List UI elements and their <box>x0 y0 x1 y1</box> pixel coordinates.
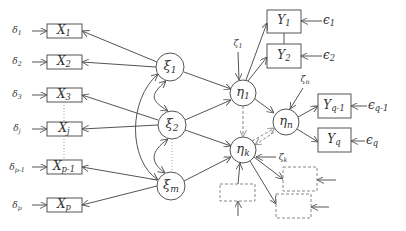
error-epsilon-q-1: ϵq-1 <box>368 99 388 113</box>
label-xp-1: Xp-1 <box>53 160 75 174</box>
label-x2: X2 <box>57 55 71 69</box>
disturbance-zeta-1: ζ1 <box>234 39 243 49</box>
error-epsilon-q: ϵq <box>366 134 378 148</box>
error-epsilon-2: ϵ2 <box>323 49 335 63</box>
error-delta-j: δj <box>13 124 20 134</box>
label-eta-k: ηk <box>236 142 249 157</box>
placeholder-indicator-3 <box>220 184 255 201</box>
label-xj: Xj <box>58 122 69 136</box>
label-yq: Yq <box>327 133 340 147</box>
label-y1: Y1 <box>277 14 290 28</box>
label-eta-n: ηn <box>279 114 293 129</box>
label-x3: X3 <box>57 88 71 102</box>
disturbance-zeta-k: ζk <box>279 153 288 163</box>
label-yq-1: Yq-1 <box>323 99 344 113</box>
label-y2: Y2 <box>277 49 290 63</box>
label-xi-1: ξ1 <box>164 59 177 74</box>
sem-diagram: δ1 δ2 δ3 δj δp-1 δp X1 X2 X3 Xj Xp-1 Xp … <box>0 0 406 231</box>
label-xi-2: ξ2 <box>166 117 179 132</box>
error-epsilon-1: ϵ1 <box>323 14 335 28</box>
error-delta-1: δ1 <box>12 26 21 36</box>
placeholder-indicator-1 <box>283 167 317 191</box>
error-delta-3: δ3 <box>12 90 21 100</box>
error-delta-p-1: δp-1 <box>9 163 25 173</box>
error-delta-2: δ2 <box>12 57 21 67</box>
label-xp: Xp <box>57 198 71 212</box>
label-eta-1: η1 <box>236 85 250 100</box>
disturbance-zeta-n: ζn <box>301 75 310 85</box>
error-delta-p: δp <box>12 201 21 211</box>
label-x1: X1 <box>57 24 71 38</box>
placeholder-indicator-2 <box>276 194 311 218</box>
label-xi-m: ξm <box>163 178 179 193</box>
